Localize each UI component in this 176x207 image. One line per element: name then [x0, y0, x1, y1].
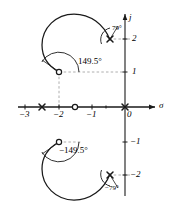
real-axis-label: σ [159, 101, 163, 110]
ytick-label-plus1: 1 [132, 67, 137, 76]
pole-marker-lower-complex [107, 172, 113, 178]
leader-149-lower [42, 143, 58, 154]
xtick-label-zero: 0 [127, 110, 132, 119]
annotation-79-upper: 79° [112, 25, 122, 32]
real-axis-arrowhead [149, 105, 155, 110]
pole-marker-upper-complex [107, 36, 113, 42]
annotation-79-lower: −79° [105, 185, 119, 192]
ytick-label-plus2: 2 [132, 34, 137, 43]
imag-axis-arrowhead [123, 14, 128, 20]
zero-marker-upper-complex [56, 69, 61, 74]
zero-marker-minus1p5 [72, 104, 77, 109]
imag-axis-label: j [129, 13, 132, 22]
annotation-149-lower: −149.5° [59, 146, 88, 155]
xtick-label-minus3: −3 [19, 110, 30, 119]
zero-marker-lower-complex [56, 139, 61, 144]
ytick-label-minus2: −2 [130, 170, 141, 179]
annotation-149-upper: 149.5° [78, 57, 102, 66]
leader-149-upper [42, 60, 58, 71]
xtick-label-minus2: −2 [53, 110, 64, 119]
xtick-label-minus1: −1 [86, 110, 97, 119]
root-locus-plot [0, 0, 176, 207]
ytick-label-minus1: −1 [130, 137, 141, 146]
